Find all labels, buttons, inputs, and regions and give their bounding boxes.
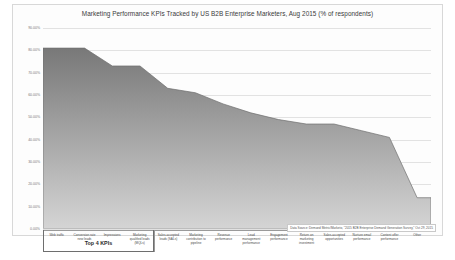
y-axis-tick-label: 60.00% — [28, 93, 40, 97]
category-label: Return onmarketinginvestment — [293, 231, 321, 252]
y-axis-tick-label: 80.00% — [28, 48, 40, 52]
category-label: Nurture emailperformance — [348, 231, 376, 252]
y-axis-tick-label: 0.00% — [30, 227, 40, 231]
category-label: Engagementperformance — [265, 231, 293, 252]
top-4-annotation: Top 4 KPIs — [43, 240, 154, 246]
y-axis-tick-label: 90.00% — [28, 26, 40, 30]
y-axis-tick-label: 10.00% — [28, 205, 40, 209]
category-label: Leadmanagementperformance — [237, 231, 265, 252]
plot-area: 90.00%80.00%70.00%60.00%50.00%40.00%30.0… — [43, 28, 431, 229]
y-axis-tick-label: 40.00% — [28, 138, 40, 142]
y-axis-tick-label: 70.00% — [28, 71, 40, 75]
category-label: Other — [403, 231, 431, 252]
category-label: Content offerperformance — [376, 231, 404, 252]
area-series — [43, 28, 431, 229]
y-axis-tick-label: 20.00% — [28, 182, 40, 186]
category-label: Revenueperformance — [210, 231, 238, 252]
chart-title: Marketing Performance KPIs Tracked by US… — [13, 10, 442, 17]
chart-figure: Marketing Performance KPIs Tracked by US… — [12, 4, 443, 236]
y-axis-tick-label: 50.00% — [28, 115, 40, 119]
category-label: Marketingcontribution topipeline — [182, 231, 210, 252]
source-note: Data Source: Demand Metric/Marketo, "201… — [287, 224, 436, 232]
category-label: Sales-acceptedopportunities — [320, 231, 348, 252]
y-axis-tick-label: 30.00% — [28, 160, 40, 164]
category-label: Sales-acceptedleads (SALs) — [154, 231, 183, 252]
